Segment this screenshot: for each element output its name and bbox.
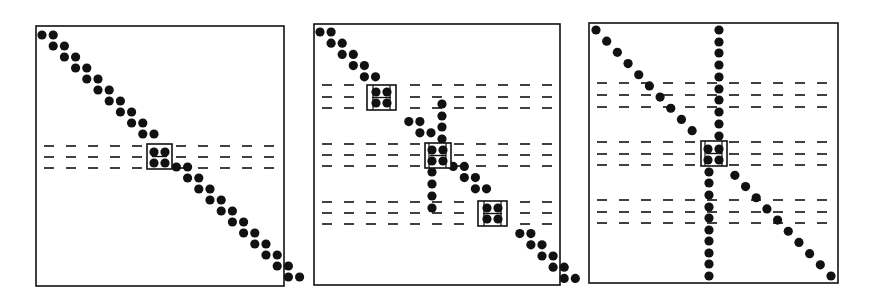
nonzero-dot [295, 272, 304, 281]
nonzero-dot [82, 63, 91, 72]
nonzero-dot [273, 261, 282, 270]
nonzero-dot [138, 118, 147, 127]
nonzero-dot [37, 30, 46, 39]
nonzero-dot [704, 225, 713, 234]
nonzero-dot [239, 217, 248, 226]
nonzero-dot [60, 41, 69, 50]
nonzero-dot [549, 263, 558, 272]
nonzero-dot [704, 259, 713, 268]
panel-1 [36, 26, 304, 286]
nonzero-dot [703, 155, 712, 164]
nonzero-dot [116, 96, 125, 105]
nonzero-dot [349, 61, 358, 70]
nonzero-dot [105, 85, 114, 94]
coupling-block [367, 85, 396, 110]
nonzero-dot [127, 118, 136, 127]
nonzero-dot [404, 117, 413, 126]
nonzero-dot [228, 217, 237, 226]
nonzero-dot [437, 111, 446, 120]
nonzero-dot [349, 50, 358, 59]
nonzero-dot [714, 60, 723, 69]
coupling-block [425, 143, 451, 168]
nonzero-dot [714, 107, 723, 116]
nonzero-dot [273, 250, 282, 259]
nonzero-dot [703, 144, 712, 153]
nonzero-dot [714, 84, 723, 93]
nonzero-dot [482, 214, 491, 223]
coupling-column [427, 167, 436, 212]
nonzero-dot [194, 173, 203, 182]
nonzero-dot [471, 173, 480, 182]
sparse-matrix-figure [0, 0, 872, 299]
nonzero-dot [591, 25, 600, 34]
nonzero-dot [714, 72, 723, 81]
dash-band [322, 85, 552, 108]
nonzero-dot [688, 126, 697, 135]
nonzero-dot [602, 37, 611, 46]
nonzero-dot [149, 129, 158, 138]
nonzero-dot [645, 81, 654, 90]
nonzero-dot [172, 162, 181, 171]
nonzero-dot [160, 147, 169, 156]
nonzero-dot [762, 204, 771, 213]
nonzero-dot [360, 72, 369, 81]
nonzero-dot [816, 260, 825, 269]
nonzero-dot [460, 162, 469, 171]
coupling-block [478, 201, 507, 226]
nonzero-dot [560, 263, 569, 272]
nonzero-dot [415, 128, 424, 137]
coupling-column [704, 167, 713, 280]
nonzero-dot [217, 206, 226, 215]
dash-band [597, 83, 827, 107]
nonzero-dot [415, 117, 424, 126]
nonzero-dot [655, 92, 664, 101]
nonzero-dot [704, 178, 713, 187]
nonzero-dot [677, 115, 686, 124]
nonzero-dot [261, 250, 270, 259]
nonzero-dot [471, 184, 480, 193]
nonzero-dot [714, 155, 723, 164]
nonzero-dot [482, 184, 491, 193]
nonzero-dot [427, 145, 436, 154]
nonzero-dot [127, 107, 136, 116]
nonzero-dot [666, 104, 675, 113]
nonzero-dot [327, 39, 336, 48]
nonzero-dot [482, 203, 491, 212]
nonzero-dot [704, 236, 713, 245]
nonzero-dot [437, 99, 446, 108]
nonzero-dot [360, 61, 369, 70]
nonzero-dot [371, 72, 380, 81]
coupling-block [147, 144, 172, 169]
nonzero-dot [571, 274, 580, 283]
nonzero-dot [515, 229, 524, 238]
nonzero-dot [714, 25, 723, 34]
nonzero-dot [549, 251, 558, 260]
panel-2 [314, 24, 580, 285]
nonzero-dot [371, 98, 380, 107]
nonzero-dot [613, 48, 622, 57]
nonzero-dot [704, 213, 713, 222]
nonzero-dot [714, 37, 723, 46]
nonzero-dot [714, 131, 723, 140]
nonzero-dot [49, 41, 58, 50]
nonzero-dot [537, 240, 546, 249]
coupling-block [701, 141, 727, 166]
nonzero-dot [183, 173, 192, 182]
nonzero-dot [228, 206, 237, 215]
nonzero-dot [105, 96, 114, 105]
nonzero-dot [261, 239, 270, 248]
nonzero-dot [537, 251, 546, 260]
nonzero-dot [493, 203, 502, 212]
nonzero-dot [382, 87, 391, 96]
nonzero-dot [704, 190, 713, 199]
nonzero-dot [714, 144, 723, 153]
nonzero-dot [138, 129, 147, 138]
nonzero-dot [160, 158, 169, 167]
nonzero-dot [714, 48, 723, 57]
nonzero-dot [205, 184, 214, 193]
nonzero-dot [714, 119, 723, 128]
nonzero-dot [784, 227, 793, 236]
nonzero-dot [427, 191, 436, 200]
nonzero-dot [560, 274, 569, 283]
nonzero-dot [704, 202, 713, 211]
